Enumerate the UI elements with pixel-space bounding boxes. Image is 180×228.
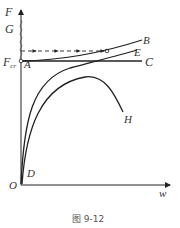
curve-d-e <box>21 50 137 184</box>
x-axis-label: w <box>159 187 167 199</box>
label-e: E <box>133 46 141 58</box>
origin-label: O <box>9 179 17 191</box>
point-a-marker <box>19 59 23 63</box>
curve-a-b <box>21 40 142 61</box>
label-g: G <box>5 22 14 36</box>
label-d: D <box>26 167 35 179</box>
label-b: B <box>143 34 150 46</box>
y-axis-label: F <box>4 5 13 19</box>
label-fcr-sub: cr <box>10 62 16 70</box>
label-a: A <box>23 58 31 70</box>
figure-caption: 图 9-12 <box>72 214 104 224</box>
label-h: H <box>123 113 133 125</box>
curve-d-h <box>22 77 123 184</box>
label-fcr: Fcr <box>2 55 16 70</box>
buckling-diagram: F G Fcr A B E C H D O w 图 9-12 <box>0 0 180 228</box>
label-c: C <box>145 55 154 69</box>
